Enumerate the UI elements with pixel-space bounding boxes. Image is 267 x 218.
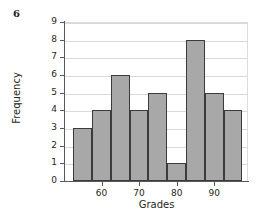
y-axis-tick-label: 3 xyxy=(45,123,57,132)
y-axis-tick xyxy=(60,110,64,111)
x-axis-tick-label: 70 xyxy=(126,188,152,198)
y-axis-title: Frequency xyxy=(11,53,23,143)
bar xyxy=(130,110,149,181)
bar xyxy=(111,75,130,181)
y-axis-tick-label: 0 xyxy=(45,176,57,185)
x-axis-tick xyxy=(139,182,140,186)
y-axis-tick-label: 6 xyxy=(45,70,57,79)
plot-area xyxy=(64,22,248,181)
x-axis-tick-label: 80 xyxy=(164,188,190,198)
y-axis-line xyxy=(64,21,65,182)
x-axis-tick xyxy=(214,182,215,186)
gridline xyxy=(64,58,247,59)
y-axis-tick xyxy=(60,22,64,23)
y-axis-tick xyxy=(60,40,64,41)
y-axis-tick-label: 8 xyxy=(45,35,57,44)
bar xyxy=(186,40,205,181)
y-axis-tick-label: 4 xyxy=(45,105,57,114)
x-axis-tick xyxy=(102,182,103,186)
bar xyxy=(73,128,92,181)
y-axis-tick-label: 1 xyxy=(45,158,57,167)
y-axis-tick xyxy=(60,93,64,94)
x-axis-title: Grades xyxy=(64,199,249,211)
y-axis-tick xyxy=(60,128,64,129)
y-axis-tick xyxy=(60,163,64,164)
y-axis-tick-label: 9 xyxy=(45,17,57,26)
x-axis-tick-label: 60 xyxy=(89,188,115,198)
y-axis-tick xyxy=(60,146,64,147)
y-axis-tick xyxy=(60,75,64,76)
gridline xyxy=(64,23,247,24)
x-axis-line xyxy=(64,181,249,182)
bar xyxy=(148,93,167,181)
y-axis-tick-label: 7 xyxy=(45,52,57,61)
y-axis-tick xyxy=(60,181,64,182)
x-axis-tick xyxy=(177,182,178,186)
y-axis-tick-label: 5 xyxy=(45,88,57,97)
y-axis-tick xyxy=(60,57,64,58)
bar xyxy=(205,93,224,181)
gridline xyxy=(64,76,247,77)
bar xyxy=(167,163,186,181)
problem-number: 6 xyxy=(13,8,20,20)
bar xyxy=(92,110,111,181)
x-axis-tick-label: 90 xyxy=(201,188,227,198)
gridline xyxy=(64,41,247,42)
histogram-figure: 6 0123456789 60708090 Grades Frequency xyxy=(0,0,267,218)
bar xyxy=(224,110,243,181)
y-axis-tick-label: 2 xyxy=(45,141,57,150)
